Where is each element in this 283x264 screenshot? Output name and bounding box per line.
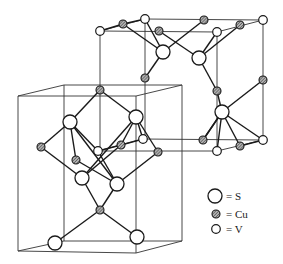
cu-atom [141,74,149,82]
v-atom [213,147,222,156]
s-atom [129,110,143,124]
cu-atom [37,143,45,151]
s-atom [110,177,124,191]
legend: = S = Cu = V [208,189,248,235]
v-atom [259,136,268,145]
cu-atom [213,87,221,95]
legend-label-cu: = Cu [226,208,248,220]
legend-label-s: = S [226,190,241,202]
cu-atom [72,156,80,164]
s-atom [192,51,206,65]
legend-label-v: = V [226,223,243,235]
v-legend-icon [212,225,221,234]
v-atom [213,28,222,37]
cu-atom [117,141,125,149]
cu-atom [236,142,244,150]
s-atom [156,45,170,59]
cu-atom [155,27,163,35]
v-atom [96,27,105,36]
cu-atom [119,20,127,28]
s-atom [215,105,229,119]
cu-atom [154,148,162,156]
legend-item-v: = V [212,223,243,235]
legend-item-cu: = Cu [212,208,248,220]
cu-atom [236,21,244,29]
sulfur-atoms [48,45,229,250]
cu-atom [259,76,267,84]
v-atom [139,135,148,144]
cu-atom [96,86,104,94]
s-legend-icon [208,189,222,203]
s-atom [130,230,144,244]
s-atom [63,115,77,129]
v-atom [94,147,103,156]
s-atom [75,171,89,185]
v-atom [259,16,268,25]
v-atom [141,15,150,24]
legend-item-s: = S [208,189,241,203]
s-atom [48,236,62,250]
crystal-structure-diagram: = S = Cu = V [0,0,283,264]
cu-atom [200,16,208,24]
cu-atom [199,136,207,144]
cu-atom [96,206,104,214]
cu-legend-icon [212,210,220,218]
